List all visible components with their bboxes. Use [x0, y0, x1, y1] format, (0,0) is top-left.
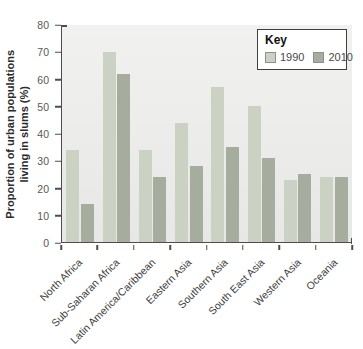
legend-swatch — [265, 52, 276, 63]
bar-2010 — [262, 158, 275, 242]
bar-group-3 — [135, 25, 171, 242]
x-tick-mark — [351, 245, 353, 250]
x-category-labels: North AfricaSub-Saharan AfricaLatin Amer… — [61, 254, 352, 346]
x-tick-mark — [60, 245, 62, 250]
x-tick-mark — [97, 245, 99, 250]
bar-2010 — [153, 177, 166, 242]
bar-2010 — [335, 177, 348, 242]
bar-group-4 — [171, 25, 207, 242]
bar-1990 — [103, 52, 116, 242]
legend-row: 19902010 — [265, 51, 339, 63]
bar-1990 — [320, 177, 333, 242]
x-category-label: Sub-Saharan Africa — [48, 256, 121, 329]
bar-1990 — [175, 123, 188, 242]
legend: Key 19902010 — [257, 29, 347, 70]
x-tick-mark — [315, 245, 317, 250]
legend-item-2010: 2010 — [313, 51, 352, 63]
legend-item-1990: 1990 — [265, 51, 304, 63]
x-tick-mark — [279, 245, 281, 250]
legend-swatch — [313, 52, 324, 63]
bar-1990 — [211, 87, 224, 242]
x-tick-mark — [242, 245, 244, 250]
y-tick-label: 50 — [37, 101, 49, 113]
bar-group-2 — [98, 25, 134, 242]
y-tick-label: 80 — [37, 19, 49, 31]
legend-title: Key — [265, 34, 339, 47]
y-tick-label: 20 — [37, 183, 49, 195]
bar-2010 — [81, 204, 94, 242]
x-tick-mark — [133, 245, 135, 250]
y-axis: 01020304050607080 — [0, 25, 62, 243]
legend-item-label: 1990 — [280, 51, 304, 63]
bar-1990 — [284, 180, 297, 242]
bar-2010 — [298, 174, 311, 242]
y-tick-label: 10 — [37, 210, 49, 222]
x-category-label: Oceania — [303, 256, 339, 292]
bar-2010 — [117, 74, 130, 242]
bar-group-1 — [62, 25, 98, 242]
bar-group-5 — [207, 25, 243, 242]
bar-1990 — [66, 150, 79, 242]
legend-item-label: 2010 — [328, 51, 352, 63]
bar-1990 — [139, 150, 152, 242]
slums-bar-chart-figure: Proportion of urban populations living i… — [0, 0, 363, 349]
y-tick-label: 60 — [37, 74, 49, 86]
y-tick-label: 40 — [37, 128, 49, 140]
x-tick-mark — [169, 245, 171, 250]
y-tick-label: 30 — [37, 155, 49, 167]
bar-1990 — [248, 106, 261, 242]
bar-2010 — [226, 147, 239, 242]
bar-2010 — [190, 166, 203, 242]
x-axis — [61, 245, 352, 251]
y-tick-label: 0 — [43, 237, 49, 249]
y-tick-label: 70 — [37, 46, 49, 58]
x-tick-mark — [206, 245, 208, 250]
